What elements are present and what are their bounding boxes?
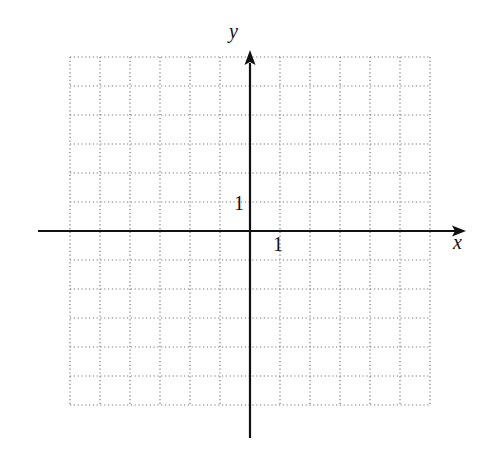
x-axis-label: x bbox=[452, 231, 462, 253]
coordinate-plane: y x 1 1 bbox=[0, 0, 489, 456]
y-axis-arrow-icon bbox=[245, 50, 256, 65]
x-tick-label-1: 1 bbox=[273, 233, 283, 255]
y-tick-label-1: 1 bbox=[234, 192, 244, 214]
y-axis-label: y bbox=[227, 20, 238, 43]
